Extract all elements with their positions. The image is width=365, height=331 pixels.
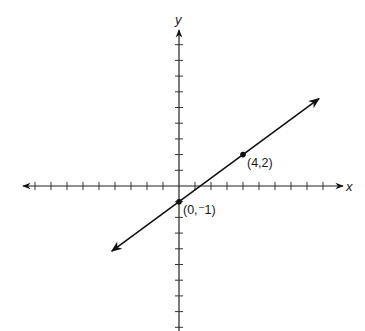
coordinate-plane: (0,⁻1)(4,2) x y <box>0 0 365 331</box>
axes <box>23 30 343 331</box>
series-line <box>112 99 319 251</box>
x-axis-label: x <box>345 179 353 194</box>
points: (0,⁻1)(4,2) <box>176 152 273 217</box>
data-point <box>240 152 246 158</box>
series <box>112 99 319 251</box>
y-axis-label: y <box>174 12 183 27</box>
data-point <box>176 199 182 205</box>
point-label: (0,⁻1) <box>183 203 216 217</box>
point-label: (4,2) <box>247 156 273 170</box>
